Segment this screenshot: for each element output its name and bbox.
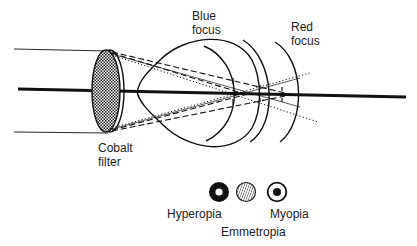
legend-label-emmetropia: Emmetropia [221,225,286,239]
legend-symbols [209,182,286,202]
cobalt-filter [92,50,124,132]
cobalt-filter-diagram: Blue focus Red focus Cobalt filter Hyper… [0,0,417,246]
cobalt-filter-label: Cobalt filter [98,141,133,169]
blue-focus-label-line1: Blue [192,9,221,23]
legend-label-hyperopia: Hyperopia [167,207,222,221]
optical-axis [18,89,406,97]
red-focus-label-line2: focus [291,34,320,48]
cobalt-filter-label-line2: filter [98,155,133,169]
hyperopia-icon [209,182,229,202]
blue-focus-label: Blue focus [192,9,221,37]
red-focus-label: Red focus [291,20,320,48]
red-focus-label-line1: Red [291,20,320,34]
legend-label-myopia: Myopia [270,207,309,221]
cobalt-filter-label-line1: Cobalt [98,141,133,155]
blue-focus-label-line2: focus [192,23,221,37]
emmetropia-icon [237,183,256,202]
myopia-icon [268,183,287,202]
